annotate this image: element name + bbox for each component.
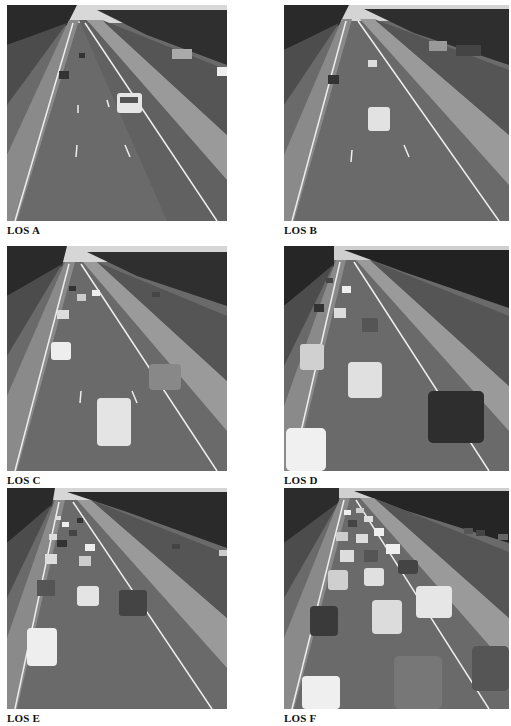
- panel-label: LOS E: [7, 712, 40, 724]
- highway-photo-los-f: [284, 488, 509, 709]
- panel-label: LOS F: [284, 712, 316, 724]
- highway-photo-los-b: [284, 5, 509, 221]
- panel-label: LOS C: [7, 474, 41, 486]
- panel-label: LOS A: [7, 224, 40, 236]
- highway-photo-los-e: [7, 488, 227, 709]
- highway-photo-los-c: [7, 246, 227, 471]
- highway-photo-los-a: [7, 5, 227, 221]
- panel-label: LOS B: [284, 224, 317, 236]
- panel-label: LOS D: [284, 474, 318, 486]
- highway-photo-los-d: [284, 246, 509, 471]
